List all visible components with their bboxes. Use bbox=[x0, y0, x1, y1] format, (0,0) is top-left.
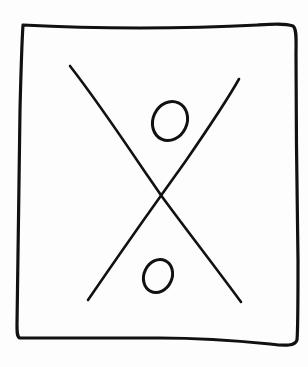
sketch-svg bbox=[0, 0, 308, 367]
cross-line-descending bbox=[70, 66, 241, 302]
upper-circle bbox=[146, 96, 194, 147]
drawing-canvas: Hand-drawn rectangular frame containing … bbox=[0, 0, 308, 367]
frame-rectangle bbox=[17, 24, 298, 345]
lower-circle bbox=[138, 255, 178, 298]
